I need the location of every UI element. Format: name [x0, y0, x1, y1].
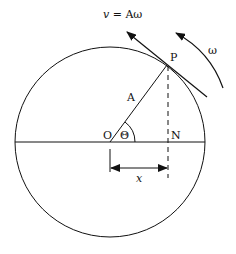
origin-o-label: O — [103, 129, 112, 142]
point-p-label: P — [170, 51, 178, 64]
omega-label: ω — [208, 44, 217, 57]
angle-theta-label: Θ — [120, 129, 129, 142]
displacement-x-label: x — [136, 172, 143, 185]
radius-line-op — [110, 65, 167, 142]
foot-n-label: N — [171, 129, 181, 142]
velocity-label: v = Aω — [103, 8, 142, 21]
radius-a-label: A — [126, 91, 136, 104]
velocity-tangent-arrow — [127, 32, 207, 97]
shm-circle-diagram: v = Aω ω P A O Θ N x — [0, 0, 236, 254]
omega-rotation-arrow — [176, 33, 223, 88]
